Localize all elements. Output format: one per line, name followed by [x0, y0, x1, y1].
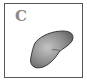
kidney-shape-icon — [5, 4, 84, 79]
figure-panel-c: C — [4, 3, 83, 78]
